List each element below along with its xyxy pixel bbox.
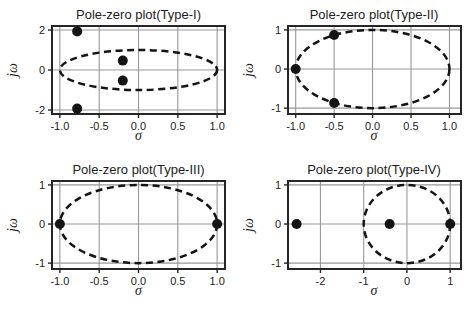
pole-zero-marker <box>329 30 339 40</box>
y-tick-label: 0 <box>39 217 45 229</box>
y-tick-label: 1 <box>274 24 280 36</box>
y-tick-label: -1 <box>271 256 281 268</box>
y-tick-label: 0 <box>274 63 280 75</box>
y-tick-label: -1 <box>35 256 45 268</box>
pole-zero-marker <box>384 219 394 229</box>
x-axis-label: σ <box>52 283 225 299</box>
x-axis-label: σ <box>52 128 225 144</box>
pole-zero-figure: Pole-zero plot(Type-I) jω -1.0-0.50.00.5… <box>0 0 471 309</box>
pole-zero-marker <box>445 219 455 229</box>
pole-zero-marker <box>290 64 300 74</box>
y-tick-label: -1 <box>271 102 281 114</box>
subplot-type-iv: Pole-zero plot(Type-IV) jω -2-10110-1 σ <box>236 155 471 309</box>
y-tick-label: 1 <box>274 178 280 190</box>
pole-zero-marker <box>118 56 128 66</box>
x-axis-label: σ <box>288 128 461 144</box>
plot-box <box>288 26 461 114</box>
pole-zero-marker <box>329 98 339 108</box>
pole-zero-marker <box>291 219 301 229</box>
pole-zero-marker <box>118 76 128 86</box>
subplot-type-iii: Pole-zero plot(Type-III) jω -1.0-0.50.00… <box>0 155 236 309</box>
subplot-type-ii: Pole-zero plot(Type-II) jω -1.0-0.50.00.… <box>236 0 471 155</box>
pole-zero-marker <box>72 104 82 114</box>
y-tick-label: 1 <box>39 178 45 190</box>
y-tick-label: 0 <box>39 64 45 76</box>
y-tick-label: 2 <box>39 24 45 36</box>
pole-zero-marker <box>72 26 82 36</box>
subplot-type-i: Pole-zero plot(Type-I) jω -1.0-0.50.00.5… <box>0 0 236 155</box>
pole-zero-marker <box>55 219 65 229</box>
y-tick-label: -2 <box>35 104 45 116</box>
pole-zero-marker <box>212 219 222 229</box>
x-axis-label: σ <box>288 283 461 299</box>
y-tick-label: 0 <box>274 217 280 229</box>
